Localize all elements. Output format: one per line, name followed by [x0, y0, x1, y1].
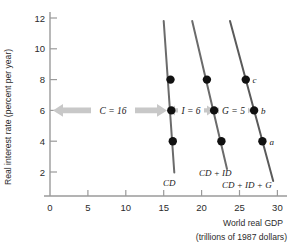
curve-cd-id-g-line — [230, 21, 273, 181]
data-point-label-b: b — [261, 106, 266, 116]
data-point-cd-id-r6 — [210, 106, 218, 114]
y-tick-label-8: 8 — [40, 74, 45, 85]
y-tick-label-12: 12 — [34, 13, 45, 24]
data-point-cd-id-g-r6 — [250, 106, 258, 114]
annotation-G-span: G = 5 — [215, 103, 253, 118]
chart-container: 12 10 8 6 4 2 0 5 10 15 20 25 30 Real in… — [0, 0, 293, 249]
economics-line-chart: 12 10 8 6 4 2 0 5 10 15 20 25 30 Real in… — [0, 0, 293, 249]
y-tick-label-6: 6 — [40, 105, 45, 116]
x-tick-label-20: 20 — [196, 202, 207, 213]
data-point-cd-r8 — [166, 75, 174, 83]
y-tick-label-10: 10 — [34, 43, 45, 54]
x-tick-label-15: 15 — [158, 202, 169, 213]
curve-cd-group: CD — [163, 21, 177, 188]
annotation-label-I: I = 6 — [180, 106, 200, 116]
y-axis-ticks: 12 10 8 6 4 2 — [34, 13, 57, 178]
curve-label-cd-id: CD + ID — [199, 168, 232, 178]
y-tick-label-2: 2 — [40, 167, 45, 178]
x-tick-label-0: 0 — [47, 202, 52, 213]
annotation-C-span: C = 16 — [53, 103, 167, 118]
annotation-label-G: G = 5 — [222, 106, 245, 116]
x-tick-label-5: 5 — [85, 202, 90, 213]
curve-cd-line — [164, 21, 175, 173]
annotation-label-C: C = 16 — [100, 106, 127, 116]
data-point-label-c: c — [253, 75, 257, 85]
curve-label-cd-id-g: CD + ID + G — [222, 180, 272, 190]
data-point-cd-r4 — [169, 137, 177, 145]
curve-cd-id-line — [192, 21, 227, 169]
x-tick-label-25: 25 — [234, 202, 245, 213]
data-point-cd-r6 — [167, 106, 175, 114]
data-point-cd-id-g-r8 — [242, 75, 250, 83]
x-axis-ticks: 0 5 10 15 20 25 30 — [47, 190, 282, 213]
curve-label-cd: CD — [163, 178, 176, 188]
data-point-cd-id-r8 — [203, 75, 211, 83]
x-tick-label-10: 10 — [121, 202, 132, 213]
x-axis-title: World real GDP — [223, 218, 283, 228]
y-tick-label-4: 4 — [40, 136, 45, 147]
data-point-cd-id-g-r4 — [258, 137, 266, 145]
x-axis-subtitle: (trillions of 1987 dollars) — [196, 232, 287, 242]
x-tick-label-30: 30 — [272, 202, 283, 213]
data-point-label-a: a — [270, 137, 275, 147]
data-point-cd-id-r4 — [217, 137, 225, 145]
curve-cd-id-group: CD + ID — [192, 21, 232, 178]
y-axis-title: Real interest rate (percent per year) — [3, 49, 13, 185]
